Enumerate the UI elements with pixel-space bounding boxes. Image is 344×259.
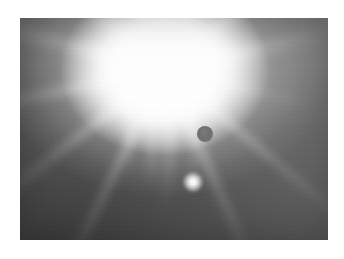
sun-glare-photograph	[20, 18, 328, 240]
photo-vignette	[20, 18, 328, 240]
page-canvas	[0, 0, 344, 259]
